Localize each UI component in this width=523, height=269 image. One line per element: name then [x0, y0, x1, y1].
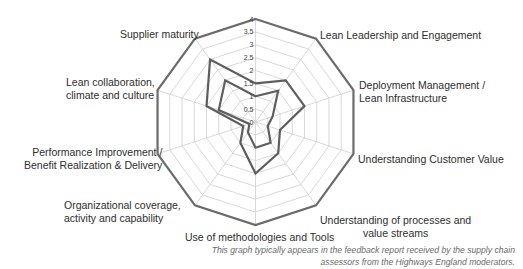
axis-label-line: Understanding of processes and [320, 214, 471, 227]
axis-label-line: Benefit Realization & Delivery [24, 159, 162, 172]
tick-label: 3 [250, 41, 254, 48]
axis-label-line: Deployment Management / [359, 79, 485, 92]
tick-label: 0 [250, 119, 254, 126]
caption-line: This graph typically appears in the feed… [155, 244, 515, 256]
axis-label-deployment-management: Deployment Management / Lean Infrastruct… [359, 79, 485, 105]
tick-label: 2 [250, 67, 254, 74]
axis-label-lean-leadership: Lean Leadership and Engagement [320, 29, 481, 42]
axis-label-line: Performance Improvement / [24, 146, 162, 159]
tick-label: 1 [250, 93, 254, 100]
tick-label: 0.5 [244, 106, 254, 113]
axis-label-line: value streams [320, 227, 471, 240]
axis-label-methodologies-tools: Use of methodologies and Tools [185, 231, 334, 244]
axis-label-customer-value: Understanding Customer Value [358, 153, 504, 166]
radar-tick-labels: 00.511.522.533.54 [244, 16, 254, 126]
series-polygon [219, 80, 278, 147]
tick-label: 2.5 [244, 54, 254, 61]
tick-label: 1.5 [244, 80, 254, 87]
chart-caption: This graph typically appears in the feed… [155, 244, 515, 268]
axis-label-line: Organizational coverage, [64, 199, 181, 212]
axis-label-organizational-coverage: Organizational coverage, activity and ca… [64, 199, 181, 225]
axis-label-line: activity and capability [64, 212, 181, 225]
axis-label-supplier-maturity: Supplier maturity [120, 28, 199, 41]
axis-label-line: Lean Infrastructure [359, 92, 485, 105]
axis-spoke [256, 122, 317, 205]
axis-label-lean-collaboration: Lean collaboration, climate and culture [66, 76, 155, 102]
axis-label-line: Lean collaboration, [66, 76, 155, 89]
axis-spoke [195, 122, 256, 205]
tick-label: 3.5 [244, 28, 254, 35]
tick-label: 4 [250, 16, 254, 23]
caption-line: assessors from the Highways England mode… [155, 256, 515, 268]
axis-label-processes-value-streams: Understanding of processes and value str… [320, 214, 471, 240]
axis-label-performance-improvement: Performance Improvement / Benefit Realiz… [24, 146, 162, 172]
axis-label-line: climate and culture [66, 89, 155, 102]
